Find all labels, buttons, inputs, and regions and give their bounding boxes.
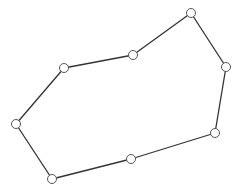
polygon-diagram	[0, 0, 236, 192]
vertex-node-v7	[60, 64, 69, 73]
vertex-node-v4	[127, 155, 136, 164]
vertex-node-v3	[211, 129, 220, 138]
polygon-outline	[16, 13, 226, 179]
vertex-node-v1	[187, 9, 196, 18]
polygon-vertices	[12, 9, 231, 184]
vertex-node-v8	[129, 51, 138, 60]
vertex-node-v2	[222, 63, 231, 72]
vertex-node-v5	[48, 175, 57, 184]
vertex-node-v6	[12, 120, 21, 129]
